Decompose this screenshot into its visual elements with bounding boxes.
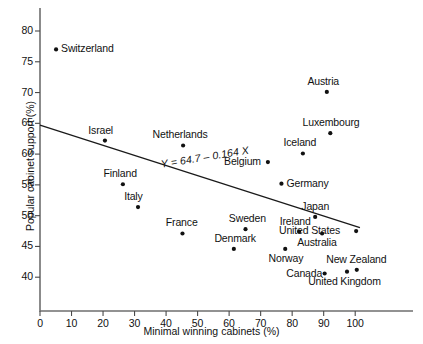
data-point (354, 229, 358, 233)
data-point-label: Iceland (283, 136, 316, 148)
data-point (180, 231, 184, 235)
data-point (136, 205, 140, 209)
data-point (103, 138, 107, 142)
data-point-label: France (166, 216, 198, 228)
data-point (328, 131, 332, 135)
y-tick-label: 80 (6, 24, 33, 36)
data-point-label: Israel (88, 124, 113, 136)
data-point (301, 151, 305, 155)
data-point (283, 247, 287, 251)
data-point (54, 47, 58, 51)
data-point (243, 227, 247, 231)
data-point-label: New Zealand (326, 253, 386, 265)
data-point-label: Sweden (229, 212, 266, 224)
y-axis-title: Popular cabinet support (%) (24, 51, 36, 281)
data-point-label: Netherlands (153, 128, 208, 140)
scatter-plot-figure: 404550556065707580 010203040506070809010… (0, 0, 423, 344)
data-point (325, 90, 329, 94)
data-point-label: Luxembourg (303, 116, 360, 128)
data-point-label: Austria (307, 75, 339, 87)
data-point-label: United Kingdom (308, 275, 381, 287)
data-point (181, 143, 185, 147)
data-point (313, 215, 317, 219)
data-point-label: Switzerland (61, 42, 114, 54)
data-point (345, 270, 349, 274)
data-point (121, 182, 125, 186)
x-axis-title: Minimal winning cabinets (%) (0, 325, 423, 337)
data-point-label: Australia (297, 236, 337, 248)
data-point (355, 268, 359, 272)
data-point-label: Norway (269, 252, 304, 264)
data-point-label: Denmark (214, 232, 256, 244)
data-point-label: Germany (286, 177, 328, 189)
data-point-label: Italy (124, 190, 143, 202)
data-point (266, 160, 270, 164)
data-point-label: Japan (301, 200, 329, 212)
data-point (232, 247, 236, 251)
data-point (279, 182, 283, 186)
data-point-label: United States (279, 224, 340, 236)
data-point-label: Finland (103, 167, 136, 179)
